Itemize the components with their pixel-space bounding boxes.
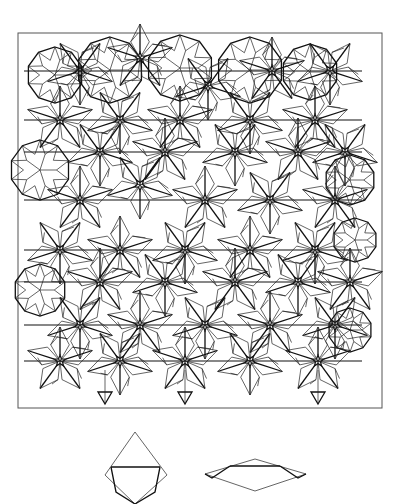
thin-rhombus [205,459,306,491]
tiling-figure [0,0,400,504]
thick-rhombus [105,432,167,504]
tiling-diagram [0,0,400,504]
prototile-shapes [105,432,306,504]
tiling-pattern [11,24,382,404]
